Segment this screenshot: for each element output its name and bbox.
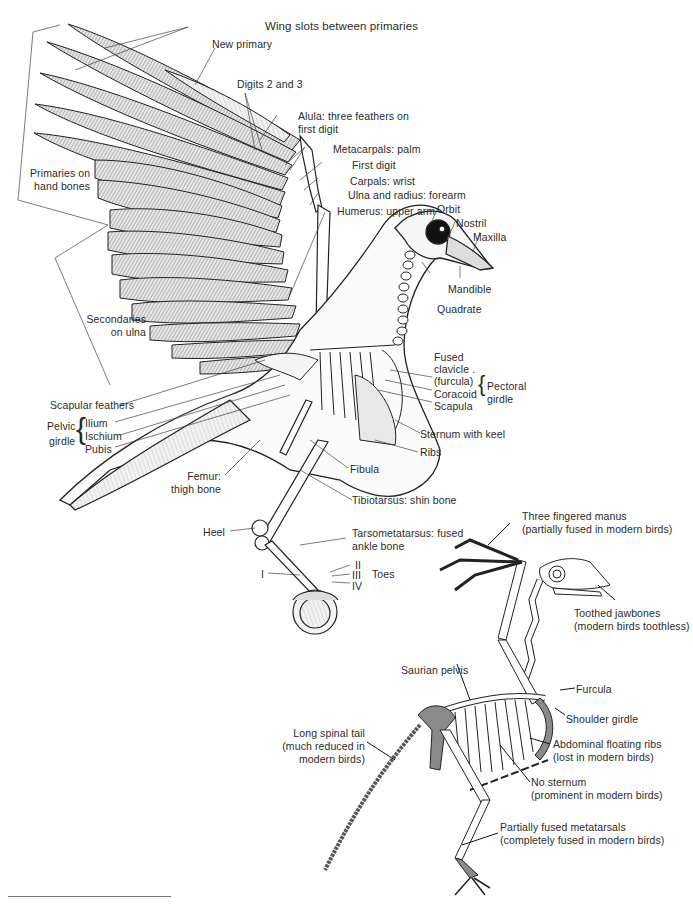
label-new-primary: New primary bbox=[212, 38, 272, 51]
label-tarsometatarsus-line2: ankle bone bbox=[352, 540, 404, 553]
label-maxilla: Maxilla bbox=[473, 231, 506, 244]
label-femur-line1: Femur: bbox=[165, 470, 221, 483]
label-tarsometatarsus-line1: Tarsometatarsus: fused bbox=[352, 527, 463, 540]
label-primaries-line2: hand bones bbox=[30, 180, 90, 193]
label-metatarsals-line2: (completely fused in modern birds) bbox=[500, 834, 664, 847]
label-metacarpals: Metacarpals: palm bbox=[333, 143, 420, 156]
label-saurian-pelvis: Saurian pelvis bbox=[401, 664, 468, 677]
label-sternum-keel: Sternum with keel bbox=[420, 428, 505, 441]
label-floating-ribs-line2: (lost in modern birds) bbox=[553, 751, 654, 764]
label-manus-line1: Three fingered manus bbox=[522, 510, 627, 523]
label-pelvic-line2: girdle bbox=[49, 435, 75, 448]
label-mandible: Mandible bbox=[448, 283, 491, 296]
label-pelvic-line1: Pelvic bbox=[47, 420, 76, 433]
label-nostril: Nostril bbox=[456, 217, 486, 230]
label-toe-4: IV bbox=[352, 580, 362, 593]
bird-skeleton-diagram: Wing slots between primaries New primary… bbox=[0, 0, 693, 905]
label-pectoral-line1: Pectoral bbox=[487, 380, 526, 393]
label-shoulder-girdle: Shoulder girdle bbox=[566, 713, 638, 726]
label-orbit: Orbit bbox=[437, 203, 460, 216]
label-alula-line2: first digit bbox=[298, 123, 338, 136]
label-fibula: Fibula bbox=[350, 463, 379, 476]
label-wing-slots: Wing slots between primaries bbox=[265, 20, 418, 33]
label-primaries-line1: Primaries on bbox=[30, 167, 90, 180]
label-manus-line2: (partially fused in modern birds) bbox=[522, 523, 672, 536]
label-secondaries-line1: Secondaries bbox=[60, 313, 146, 326]
label-pectoral-line2: girdle bbox=[487, 393, 513, 406]
label-metatarsals-line1: Partially fused metatarsals bbox=[500, 821, 626, 834]
label-secondaries-line2: on ulna bbox=[60, 326, 146, 339]
label-first-digit: First digit bbox=[352, 159, 396, 172]
label-floating-ribs-line1: Abdominal floating ribs bbox=[553, 738, 662, 751]
label-toothed-jaw-line1: Toothed jawbones bbox=[574, 607, 660, 620]
label-toothed-jaw-line2: (modern birds toothless) bbox=[574, 620, 690, 633]
label-scapular-feathers: Scapular feathers bbox=[50, 399, 134, 412]
footnote-divider bbox=[8, 896, 171, 897]
label-alula-line1: Alula: three feathers on bbox=[298, 110, 409, 123]
label-scapula: Scapula bbox=[434, 400, 473, 413]
label-fused-clavicle-line2: clavicle . bbox=[434, 363, 475, 376]
brace-pectoral: { bbox=[478, 373, 485, 395]
label-ischium: Ischium bbox=[85, 430, 122, 443]
label-spinal-tail-line2: (much reduced in bbox=[255, 740, 365, 753]
label-toes: Toes bbox=[372, 568, 395, 581]
label-carpals: Carpals: wrist bbox=[350, 175, 415, 188]
label-quadrate: Quadrate bbox=[437, 303, 482, 316]
label-fused-clavicle-line1: Fused bbox=[434, 351, 464, 364]
label-pubis: Pubis bbox=[85, 443, 112, 456]
label-tibiotarsus: Tibiotarsus: shin bone bbox=[352, 494, 457, 507]
label-ribs: Ribs bbox=[420, 446, 441, 459]
label-spinal-tail-line1: Long spinal tail bbox=[255, 727, 365, 740]
label-no-sternum-line2: (prominent in modern birds) bbox=[531, 789, 663, 802]
label-digits-2-3: Digits 2 and 3 bbox=[237, 78, 303, 91]
label-heel: Heel bbox=[203, 526, 225, 539]
label-toe-1: I bbox=[261, 568, 264, 581]
label-coracoid: Coracoid bbox=[434, 388, 477, 401]
label-ilium: Ilium bbox=[85, 417, 108, 430]
label-femur-line2: thigh bone bbox=[165, 483, 221, 496]
label-humerus: Humerus: upper arm bbox=[337, 205, 435, 218]
label-furcula: (furcula) bbox=[434, 375, 473, 388]
label-furcula-ancestral: Furcula bbox=[576, 683, 612, 696]
label-ulna-radius: Ulna and radius: forearm bbox=[348, 189, 466, 202]
label-spinal-tail-line3: modern birds) bbox=[255, 753, 365, 766]
label-no-sternum-line1: No sternum bbox=[531, 776, 586, 789]
